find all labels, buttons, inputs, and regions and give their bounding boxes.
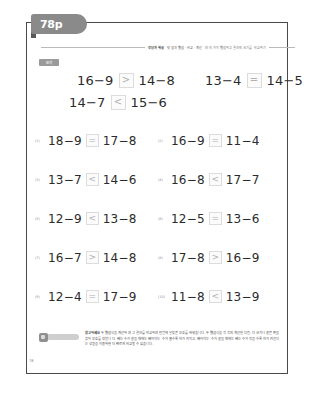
tab-body[interactable]: 78p bbox=[31, 14, 87, 34]
note-body: 두 뺄셈식을 계산하여 그 결과를 비교하여 빈칸에 알맞은 부호를 써넣습니다… bbox=[85, 331, 279, 346]
problem-number: (8) bbox=[158, 256, 167, 260]
problem-item: (2) 16−9 = 11−4 bbox=[158, 134, 281, 148]
problem-expression: 12−9 < 13−8 bbox=[48, 212, 137, 226]
expression-left: 13−4 bbox=[205, 73, 242, 88]
problem-item: (1) 18−9 = 17−8 bbox=[35, 134, 158, 148]
problem-number: (4) bbox=[158, 178, 167, 182]
example-expression: 14−7 < 15−6 bbox=[69, 95, 167, 110]
problem-number: (9) bbox=[35, 295, 44, 299]
comparison-symbol-box[interactable]: = bbox=[209, 134, 222, 147]
breadcrumb-path: 덧셈과 뺄셈 · 비교 · 계산 bbox=[167, 45, 202, 50]
expression-right: 14−8 bbox=[103, 251, 137, 265]
worksheet-page: 정답과 해설 덧셈과 뺄셈 · 비교 · 계산 여러 가지 뺄셈하고 결과의 크… bbox=[26, 22, 288, 374]
problem-expression: 18−9 = 17−8 bbox=[48, 134, 137, 148]
comparison-symbol-box[interactable]: > bbox=[209, 251, 222, 264]
problem-item: (10) 11−8 < 13−9 bbox=[158, 290, 281, 304]
problem-item: (8) 17−8 > 16−9 bbox=[158, 251, 281, 265]
problem-item: (4) 16−8 < 17−7 bbox=[158, 173, 281, 187]
problem-row: (3) 13−7 < 14−6 (4) 16−8 < 17−7 bbox=[35, 160, 281, 199]
problem-number: (1) bbox=[35, 139, 44, 143]
comparison-symbol-box[interactable]: > bbox=[119, 73, 134, 88]
problem-item: (5) 12−9 < 13−8 bbox=[35, 212, 158, 226]
example-expression: 16−9 > 14−8 bbox=[77, 73, 175, 88]
note-badge-pill bbox=[46, 334, 79, 340]
expression-left: 12−9 bbox=[48, 212, 82, 226]
problem-number: (10) bbox=[158, 295, 167, 299]
header-rule-right bbox=[269, 47, 295, 48]
footer-note: 참고하세요 두 뺄셈식을 계산하여 그 결과를 비교하여 빈칸에 알맞은 부호를… bbox=[39, 331, 279, 348]
comparison-symbol-box[interactable]: = bbox=[86, 290, 99, 303]
problem-item: (7) 16−7 > 14−8 bbox=[35, 251, 158, 265]
comparison-symbol-box[interactable]: = bbox=[86, 134, 99, 147]
problem-expression: 12−4 = 17−9 bbox=[48, 290, 137, 304]
example-row: 16−9 > 14−8 13−4 = 14−5 bbox=[39, 69, 277, 91]
expression-left: 16−9 bbox=[171, 134, 205, 148]
header-rule-left bbox=[41, 47, 145, 48]
expression-right: 13−6 bbox=[226, 212, 260, 226]
problem-expression: 13−7 < 14−6 bbox=[48, 173, 137, 187]
page-header-bar: 정답과 해설 덧셈과 뺄셈 · 비교 · 계산 여러 가지 뺄셈하고 결과의 크… bbox=[41, 45, 275, 50]
note-badge-icon bbox=[39, 333, 79, 342]
expression-right: 17−7 bbox=[226, 173, 260, 187]
comparison-symbol-box[interactable]: < bbox=[209, 173, 222, 186]
expression-left: 14−7 bbox=[69, 95, 106, 110]
problem-row: (5) 12−9 < 13−8 (6) 12−5 = 13−6 bbox=[35, 199, 281, 238]
problem-expression: 17−8 > 16−9 bbox=[171, 251, 260, 265]
problem-item: (9) 12−4 = 17−9 bbox=[35, 290, 158, 304]
example-block: 16−9 > 14−8 13−4 = 14−5 14−7 < 15−6 bbox=[39, 69, 277, 113]
expression-right: 13−8 bbox=[103, 212, 137, 226]
expression-right: 11−4 bbox=[226, 134, 260, 148]
example-expression: 13−4 = 14−5 bbox=[205, 73, 303, 88]
tab-label: 78p bbox=[40, 18, 62, 31]
note-title: 참고하세요 bbox=[85, 331, 100, 335]
expression-right: 17−9 bbox=[103, 290, 137, 304]
expression-left: 12−4 bbox=[48, 290, 82, 304]
problem-row: (1) 18−9 = 17−8 (2) 16−9 = 11−4 bbox=[35, 121, 281, 160]
expression-left: 17−8 bbox=[171, 251, 205, 265]
problem-expression: 16−9 = 11−4 bbox=[171, 134, 260, 148]
problem-number: (2) bbox=[158, 139, 167, 143]
comparison-symbol-box[interactable]: < bbox=[86, 212, 99, 225]
example-label-badge: 보기 bbox=[39, 59, 59, 66]
problem-expression: 16−8 < 17−7 bbox=[171, 173, 260, 187]
problem-number: (3) bbox=[35, 178, 44, 182]
problem-number: (7) bbox=[35, 256, 44, 260]
comparison-symbol-box[interactable]: = bbox=[209, 212, 222, 225]
problem-expression: 12−5 = 13−6 bbox=[171, 212, 260, 226]
expression-right: 16−9 bbox=[226, 251, 260, 265]
expression-left: 16−7 bbox=[48, 251, 82, 265]
example-row: 14−7 < 15−6 bbox=[39, 91, 277, 113]
problem-item: (6) 12−5 = 13−6 bbox=[158, 212, 281, 226]
problem-row: (7) 16−7 > 14−8 (8) 17−8 > 16−9 bbox=[35, 238, 281, 277]
expression-right: 13−9 bbox=[226, 290, 260, 304]
expression-left: 18−9 bbox=[48, 134, 82, 148]
expression-left: 11−8 bbox=[171, 290, 205, 304]
comparison-symbol-box[interactable]: > bbox=[86, 251, 99, 264]
comparison-symbol-box[interactable]: = bbox=[247, 73, 262, 88]
problem-list: (1) 18−9 = 17−8 (2) 16−9 = 11−4 (3) bbox=[35, 121, 281, 316]
problem-number: (5) bbox=[35, 217, 44, 221]
page-number: 78 bbox=[29, 359, 34, 363]
problem-expression: 11−8 < 13−9 bbox=[171, 290, 260, 304]
expression-right: 14−5 bbox=[267, 73, 304, 88]
expression-right: 14−8 bbox=[139, 73, 176, 88]
breadcrumb-unit: 정답과 해설 bbox=[148, 45, 164, 50]
comparison-symbol-box[interactable]: < bbox=[86, 173, 99, 186]
expression-right: 14−6 bbox=[103, 173, 137, 187]
expression-right: 17−8 bbox=[103, 134, 137, 148]
comparison-symbol-box[interactable]: < bbox=[111, 95, 126, 110]
note-text: 참고하세요 두 뺄셈식을 계산하여 그 결과를 비교하여 빈칸에 알맞은 부호를… bbox=[85, 331, 279, 348]
expression-left: 12−5 bbox=[171, 212, 205, 226]
expression-left: 16−9 bbox=[77, 73, 114, 88]
note-badge-knob bbox=[39, 333, 48, 342]
expression-left: 13−7 bbox=[48, 173, 82, 187]
example-label-text: 보기 bbox=[46, 60, 52, 65]
problem-number: (6) bbox=[158, 217, 167, 221]
comparison-symbol-box[interactable]: < bbox=[209, 290, 222, 303]
expression-right: 15−6 bbox=[131, 95, 168, 110]
page-tab[interactable]: 78p bbox=[31, 14, 87, 34]
breadcrumb-description: 여러 가지 뺄셈하고 결과의 크기를 비교하기 bbox=[205, 46, 265, 50]
expression-left: 16−8 bbox=[171, 173, 205, 187]
problem-item: (3) 13−7 < 14−6 bbox=[35, 173, 158, 187]
problem-expression: 16−7 > 14−8 bbox=[48, 251, 137, 265]
